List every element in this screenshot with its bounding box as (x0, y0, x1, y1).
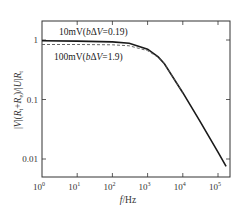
x-tick-label: 103 (139, 181, 151, 192)
y-tick-label: 1 (34, 35, 39, 45)
x-axis-label: f/Hz (120, 195, 136, 205)
annotation-100mV: 100mV(bΔV=1.9) (54, 52, 123, 63)
annotation-10mV: 10mV(bΔV=0.19) (59, 27, 128, 38)
y-axis-label: |V|(Rt+Re)/|U|Rt (13, 71, 24, 129)
y-tick-label: 0.1 (27, 95, 38, 105)
x-axis-ticks: 100101102103104105 (33, 21, 221, 192)
x-tick-label: 104 (174, 181, 186, 192)
y-tick-label: 0.01 (22, 154, 38, 164)
plot-frame (42, 21, 230, 177)
x-tick-label: 101 (68, 181, 80, 192)
bode-magnitude-chart: 100101102103104105 10.10.01 10mV(bΔV=0.1… (0, 0, 237, 212)
x-tick-label: 102 (103, 181, 115, 192)
x-tick-label: 105 (209, 181, 221, 192)
x-tick-label: 100 (33, 181, 45, 192)
